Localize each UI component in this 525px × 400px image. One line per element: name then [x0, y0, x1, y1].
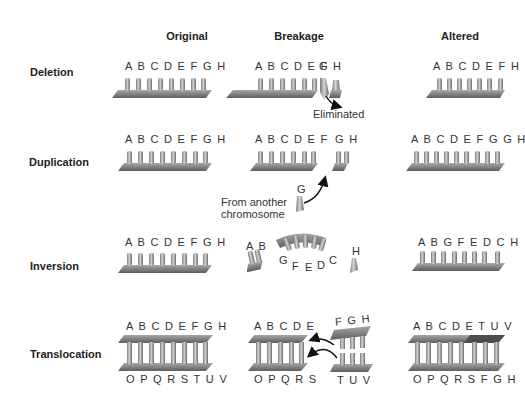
translocation-breakage-bottom: O P Q R S — [254, 373, 317, 385]
duplication-donor-g: G — [297, 183, 307, 195]
strand-translocation-breakage — [248, 326, 373, 372]
inversion-breakage-d: D — [317, 259, 326, 271]
strand-translocation-original — [118, 335, 213, 371]
translocation-original-bottom: O P Q R S T U V — [126, 373, 228, 385]
strand-duplication-altered — [406, 151, 505, 171]
duplication-breakage-letters: A B C D E F — [255, 133, 329, 145]
duplication-breakage-gh: G H — [335, 133, 358, 145]
translocation-original-top: A B C D E F G H — [126, 320, 227, 332]
from-another-chromosome-label: From another chromosome — [221, 196, 301, 220]
translocation-fragment-bottom: T U V — [337, 374, 371, 386]
strand-inversion-original — [118, 253, 212, 273]
translocation-altered-top: A B C D E T U V — [413, 320, 513, 332]
translocation-breakage-top: A B C D E — [254, 320, 315, 332]
strand-deletion-original — [112, 78, 212, 98]
inversion-original-letters: A B C D E F G H — [125, 236, 226, 248]
strand-duplication-original — [118, 151, 212, 171]
eliminated-label: Eliminated — [313, 108, 364, 120]
deletion-original-letters: A B C D E F G H — [125, 60, 226, 72]
deletion-breakage-h: H — [333, 60, 342, 72]
duplication-original-letters: A B C D E F G H — [125, 133, 226, 145]
strand-translocation-altered — [408, 335, 505, 371]
strand-deletion-altered-real — [426, 78, 505, 98]
inversion-altered-letters: A B G F E D C H — [418, 236, 519, 248]
strand-inversion-altered — [412, 251, 505, 271]
inversion-breakage-h: H — [352, 245, 361, 257]
inversion-breakage-c: C — [329, 254, 338, 266]
strand-deletion-altered — [226, 90, 303, 98]
inversion-breakage-ab: A B — [246, 240, 267, 252]
translocation-altered-bottom: O P Q R S F G H — [413, 373, 517, 385]
inversion-breakage-g: G — [279, 254, 289, 266]
inversion-breakage-f: F — [292, 260, 300, 272]
duplication-altered-letters: A B C D E F G G H — [411, 133, 525, 145]
deletion-altered-letters: A B C D E F H — [433, 60, 520, 72]
deletion-breakage-letters: A B C D E F — [255, 60, 329, 72]
inversion-breakage-e: E — [305, 261, 314, 273]
deletion-breakage-g: G — [319, 60, 329, 72]
